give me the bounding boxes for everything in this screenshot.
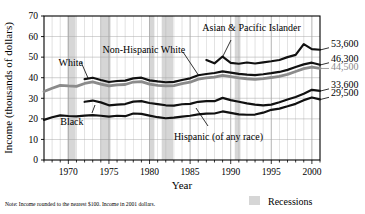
- series-annotation-black: Black: [60, 116, 83, 127]
- recession-band-2: [150, 16, 155, 160]
- recession-legend-swatch: [249, 196, 260, 205]
- x-tick-label-1995: 1995: [262, 167, 281, 177]
- end-value-label-53600: 53,600: [331, 38, 359, 49]
- y-tick-label-0: 0: [33, 155, 38, 165]
- series-annotation-asian-pacific-islander: Asian & Pacific Islander: [202, 22, 301, 33]
- series-annotation-non-hispanic-white: Non-Hispanic White: [102, 44, 185, 55]
- y-tick-label-70: 70: [29, 11, 39, 21]
- end-value-label-44500: 44,500: [331, 61, 359, 72]
- y-tick-label-40: 40: [29, 73, 39, 83]
- chart-figure: 010203040506070 197019751980198519901995…: [0, 0, 365, 214]
- series-annotation-hispanic-of-any-race: Hispanic (of any race): [174, 131, 263, 143]
- income-by-race-line-chart: 010203040506070 197019751980198519901995…: [0, 0, 365, 214]
- end-label-leader-4: [321, 97, 329, 99]
- end-label-leader-1: [321, 63, 329, 65]
- x-tick-label-1975: 1975: [99, 167, 118, 177]
- y-axis-title: Income (thousands of dollars): [2, 22, 15, 154]
- x-tick-label-1970: 1970: [59, 167, 78, 177]
- series-annotation-white: White: [59, 57, 84, 68]
- end-value-labels-group: 53,60046,30044,50033,60029,500: [321, 38, 359, 100]
- y-tick-label-10: 10: [29, 135, 39, 145]
- recession-legend-label: Recessions: [268, 196, 313, 207]
- x-axis-title: Year: [172, 179, 193, 191]
- x-tick-label-1985: 1985: [181, 167, 200, 177]
- x-axis: 1970197519801985199019952000: [44, 160, 322, 177]
- y-tick-label-50: 50: [29, 52, 39, 62]
- y-tick-label-60: 60: [29, 32, 39, 42]
- x-tick-label-2000: 2000: [302, 167, 321, 177]
- y-tick-label-30: 30: [29, 94, 39, 104]
- end-label-leader-3: [321, 89, 329, 91]
- y-axis: 010203040506070: [29, 11, 45, 165]
- x-tick-label-1990: 1990: [221, 167, 240, 177]
- end-label-leader-0: [321, 48, 329, 50]
- recession-band-3: [162, 16, 173, 160]
- footnote: Note: Income rounded to the nearest $100…: [5, 201, 156, 207]
- end-value-label-29500: 29,500: [331, 87, 359, 98]
- x-tick-label-1980: 1980: [140, 167, 159, 177]
- y-tick-label-20: 20: [29, 114, 39, 124]
